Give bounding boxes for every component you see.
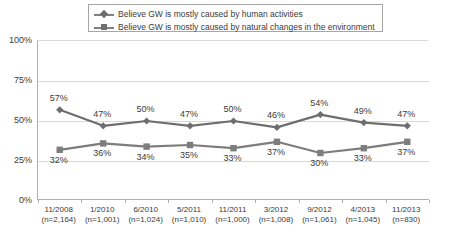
data-point-marker-square: [404, 139, 410, 145]
data-point-marker-square: [274, 139, 280, 145]
data-point-marker-diamond: [186, 122, 193, 129]
x-axis-tick: [168, 200, 169, 203]
x-axis-label-sample-size: (n=830): [377, 215, 435, 225]
data-label: 57%: [39, 94, 79, 103]
legend-item-natural-changes: Believe GW is mostly caused by natural c…: [94, 21, 378, 33]
data-label: 50%: [126, 105, 166, 114]
data-point-marker-diamond: [56, 106, 63, 113]
data-point-marker-diamond: [143, 117, 150, 124]
legend-label-human-activities: Believe GW is mostly caused by human act…: [118, 9, 303, 20]
data-label: 49%: [343, 107, 383, 116]
legend-diamond-marker-icon: [94, 9, 114, 20]
data-label: 50%: [213, 105, 253, 114]
data-point-marker-square: [100, 140, 106, 146]
data-label: 34%: [126, 153, 166, 162]
legend-item-human-activities: Believe GW is mostly caused by human act…: [94, 8, 378, 20]
data-label: 33%: [213, 154, 253, 163]
y-axis-tick-100: 100%: [0, 36, 32, 45]
x-axis-label-period: 11/2013: [377, 205, 435, 215]
data-point-marker-square: [361, 145, 367, 151]
data-label: 30%: [299, 159, 339, 168]
data-label: 33%: [343, 154, 383, 163]
data-point-marker-diamond: [273, 124, 280, 131]
data-label: 32%: [39, 156, 79, 165]
y-axis-tick-0: 0%: [0, 196, 32, 205]
data-point-marker-square: [187, 142, 193, 148]
y-axis-tick-25: 25%: [0, 156, 32, 165]
x-axis-tick: [386, 200, 387, 203]
x-axis-tick: [81, 200, 82, 203]
legend-square-marker-icon: [94, 22, 114, 33]
data-point-marker-square: [143, 143, 149, 149]
data-label: 36%: [82, 149, 122, 158]
legend-label-natural-changes: Believe GW is mostly caused by natural c…: [118, 22, 375, 33]
x-axis-tick: [125, 200, 126, 203]
data-label: 47%: [82, 110, 122, 119]
chart-legend: Believe GW is mostly caused by human act…: [88, 4, 383, 32]
y-axis-tick-75: 75%: [0, 76, 32, 85]
data-point-marker-diamond: [100, 122, 107, 129]
x-axis-tick: [38, 200, 39, 203]
data-point-marker-diamond: [230, 117, 237, 124]
x-axis-tick: [429, 200, 430, 203]
x-axis-tick: [255, 200, 256, 203]
data-label: 47%: [169, 110, 209, 119]
data-point-marker-square: [317, 150, 323, 156]
data-label: 37%: [256, 148, 296, 157]
data-point-marker-square: [57, 147, 63, 153]
x-axis-label: 11/2013(n=830): [377, 205, 435, 225]
plot-area: [37, 40, 428, 200]
x-axis-tick: [299, 200, 300, 203]
y-axis-tick-50: 50%: [0, 116, 32, 125]
data-label: 37%: [386, 148, 426, 157]
data-point-marker-diamond: [360, 119, 367, 126]
series-plot: [38, 41, 429, 201]
data-label: 47%: [386, 110, 426, 119]
x-axis-tick: [212, 200, 213, 203]
line-chart: Believe GW is mostly caused by human act…: [0, 0, 450, 246]
data-label: 54%: [299, 99, 339, 108]
data-point-marker-square: [230, 145, 236, 151]
data-point-marker-diamond: [317, 111, 324, 118]
data-label: 46%: [256, 111, 296, 120]
data-label: 35%: [169, 151, 209, 160]
data-point-marker-diamond: [404, 122, 411, 129]
x-axis-tick: [342, 200, 343, 203]
